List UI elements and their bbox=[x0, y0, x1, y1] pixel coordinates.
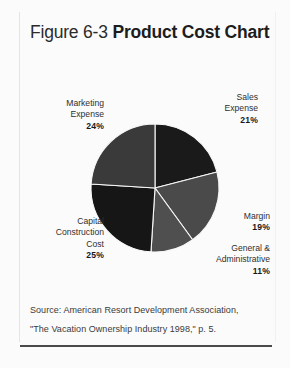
pie-slice bbox=[91, 124, 155, 188]
figure-number: Figure 6-3 bbox=[30, 22, 108, 42]
page-edge-left bbox=[19, 12, 20, 342]
page-edge-right bbox=[275, 12, 276, 342]
bottom-rule bbox=[20, 345, 272, 347]
slice-label-line: General & bbox=[190, 243, 270, 254]
slice-label-line: Cost bbox=[20, 239, 104, 250]
slice-label-sales-expense: Sales Expense 21% bbox=[196, 92, 258, 126]
slice-label-line: Sales bbox=[196, 92, 258, 103]
figure-title-text: Product Cost Chart bbox=[112, 22, 269, 42]
slice-value: 24% bbox=[28, 121, 104, 132]
slice-label-line: Expense bbox=[196, 103, 258, 114]
source-note-line-1: Source: American Resort Development Asso… bbox=[30, 305, 239, 315]
slice-label-line: Marketing bbox=[28, 98, 104, 109]
slice-value: 11% bbox=[190, 266, 270, 277]
slice-label-line: Capital bbox=[20, 216, 104, 227]
figure-title: Figure 6-3 Product Cost Chart bbox=[30, 22, 269, 43]
slice-value: 19% bbox=[208, 222, 270, 233]
slice-label-general-administrative: General & Administrative 11% bbox=[190, 243, 270, 277]
slice-value: 21% bbox=[196, 115, 258, 126]
slice-label-margin: Margin 19% bbox=[208, 211, 270, 234]
pie-slice bbox=[151, 188, 193, 252]
slice-label-capital-construction-cost: Capital Construction Cost 25% bbox=[20, 216, 104, 262]
slice-label-line: Margin bbox=[208, 211, 270, 222]
figure-container: Figure 6-3 Product Cost Chart Sales Expe… bbox=[0, 0, 290, 368]
slice-label-line: Expense bbox=[28, 109, 104, 120]
pie-slice bbox=[155, 124, 217, 188]
source-note-line-2: "The Vacation Ownership Industry 1998," … bbox=[30, 324, 216, 334]
slice-label-marketing-expense: Marketing Expense 24% bbox=[28, 98, 104, 132]
slice-value: 25% bbox=[20, 250, 104, 261]
slice-label-line: Administrative bbox=[190, 254, 270, 265]
slice-label-line: Construction bbox=[20, 227, 104, 238]
